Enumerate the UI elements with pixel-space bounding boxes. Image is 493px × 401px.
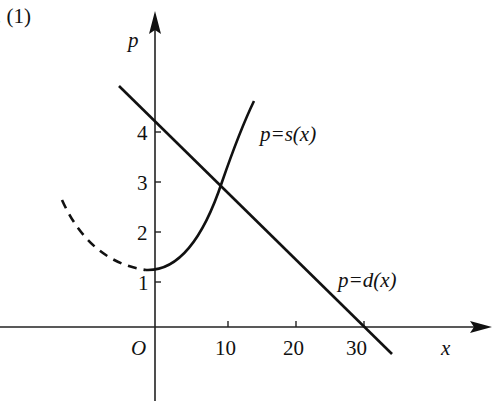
- y-tick-label-4: 4: [137, 123, 148, 144]
- origin-label: O: [131, 338, 146, 359]
- x-tick-label-20: 20: [283, 338, 304, 359]
- supply-curve-dashed: [62, 200, 146, 270]
- x-tick-label-10: 10: [215, 338, 236, 359]
- y-tick-label-1: 1: [138, 273, 149, 294]
- supply-curve-solid: [146, 101, 254, 270]
- demand-line: [119, 86, 392, 354]
- x-tick-label-30: 30: [346, 338, 367, 359]
- x-axis-label: x: [441, 338, 450, 359]
- graph-canvas: [0, 0, 493, 401]
- supply-curve-label: p=s(x): [260, 124, 316, 145]
- y-axis-label: p: [128, 30, 139, 51]
- demand-curve-label: p=d(x): [338, 270, 396, 291]
- problem-label: . (1): [0, 6, 31, 27]
- y-tick-label-3: 3: [137, 173, 148, 194]
- y-tick-label-2: 2: [137, 223, 148, 244]
